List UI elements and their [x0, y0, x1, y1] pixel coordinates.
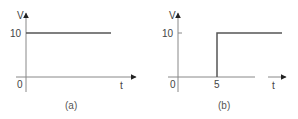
x-axis-label-a: t — [120, 80, 123, 91]
y-axis-label-a: V — [17, 10, 24, 21]
diagram-canvas: V 10 0 t (a) V 10 0 5 t (b) — [0, 0, 298, 119]
tick-label-10-b: 10 — [162, 28, 174, 39]
origin-label-a: 0 — [17, 79, 23, 90]
panel-a: V 10 0 t (a) — [10, 10, 136, 111]
panel-b: V 10 0 5 t (b) — [162, 10, 286, 111]
step-signal-b — [217, 33, 282, 77]
panel-caption-b: (b) — [218, 100, 230, 111]
tick-label-10-a: 10 — [10, 28, 22, 39]
panel-caption-a: (a) — [65, 100, 77, 111]
tick-label-5-b: 5 — [214, 79, 220, 90]
origin-label-b: 0 — [170, 79, 176, 90]
y-axis-label-b: V — [169, 10, 176, 21]
x-axis-label-b: t — [272, 80, 275, 91]
